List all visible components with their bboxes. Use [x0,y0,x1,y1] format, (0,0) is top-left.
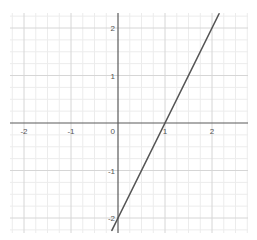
x-tick-label: -2 [20,127,28,136]
origin-label: 0 [111,127,116,136]
y-tick-label: -2 [108,214,116,223]
graph-plot: -2-1120-2-112 [0,0,257,240]
x-tick-label: -1 [67,127,75,136]
y-tick-label: -1 [108,167,116,176]
y-tick-label: 1 [111,72,116,81]
y-tick-label: 2 [111,24,116,33]
x-tick-label: 1 [163,127,168,136]
x-tick-label: 2 [210,127,215,136]
